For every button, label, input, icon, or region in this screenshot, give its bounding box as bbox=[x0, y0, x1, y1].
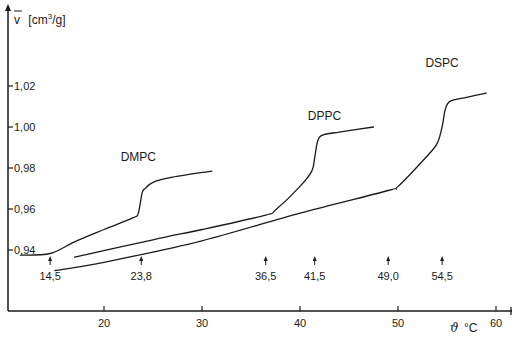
x-axis: 2030405060 ϑ °C bbox=[8, 306, 512, 335]
x-tick-label: 50 bbox=[392, 317, 404, 329]
curve-labels: DMPCDPPCDSPC bbox=[121, 56, 459, 164]
curve-label-dmpc: DMPC bbox=[121, 150, 157, 164]
y-tick-label: 0,96 bbox=[14, 203, 35, 215]
x-tick-label: 20 bbox=[98, 317, 110, 329]
up-arrow-icon bbox=[440, 256, 444, 261]
up-arrow-icon bbox=[313, 256, 317, 261]
x-axis-title: ϑ °C bbox=[450, 321, 478, 335]
y-tick-label: 0,94 bbox=[14, 244, 35, 256]
y-tick-label: 1,02 bbox=[14, 80, 35, 92]
x-tick-label: 40 bbox=[294, 317, 306, 329]
curve-dspc bbox=[55, 93, 486, 270]
y-axis-title: v [cm3/g] bbox=[14, 12, 65, 27]
curve-label-dspc: DSPC bbox=[425, 56, 459, 70]
curve-label-dppc: DPPC bbox=[308, 109, 342, 123]
up-arrow-icon bbox=[386, 256, 390, 261]
transition-temperature-label: 49,0 bbox=[377, 270, 398, 282]
transition-temperature-label: 14,5 bbox=[39, 270, 60, 282]
up-arrow-icon bbox=[264, 256, 268, 261]
transition-temperature-label: 41,5 bbox=[304, 270, 325, 282]
x-tick-label: 30 bbox=[196, 317, 208, 329]
x-ticks: 2030405060 bbox=[98, 306, 502, 329]
x-tick-label: 60 bbox=[490, 317, 502, 329]
transition-temperature-markers: 14,523,836,541,549,054,5 bbox=[39, 256, 452, 282]
specific-volume-chart: 0,940,960,981,001,02 v [cm3/g] 203040506… bbox=[0, 0, 519, 338]
transition-temperature-label: 54,5 bbox=[431, 270, 452, 282]
y-ticks: 0,940,960,981,001,02 bbox=[8, 80, 35, 256]
transition-temperature-label: 23,8 bbox=[131, 270, 152, 282]
transition-temperature-label: 36,5 bbox=[255, 270, 276, 282]
curve-dmpc bbox=[21, 171, 212, 255]
y-tick-label: 1,00 bbox=[14, 121, 35, 133]
y-axis: 0,940,960,981,001,02 v [cm3/g] bbox=[5, 4, 65, 311]
curve-dppc bbox=[75, 127, 374, 257]
y-axis-arrow-icon bbox=[5, 4, 11, 11]
up-arrow-icon bbox=[48, 256, 52, 261]
up-arrow-icon bbox=[139, 256, 143, 261]
y-tick-label: 0,98 bbox=[14, 162, 35, 174]
curves bbox=[21, 93, 487, 270]
